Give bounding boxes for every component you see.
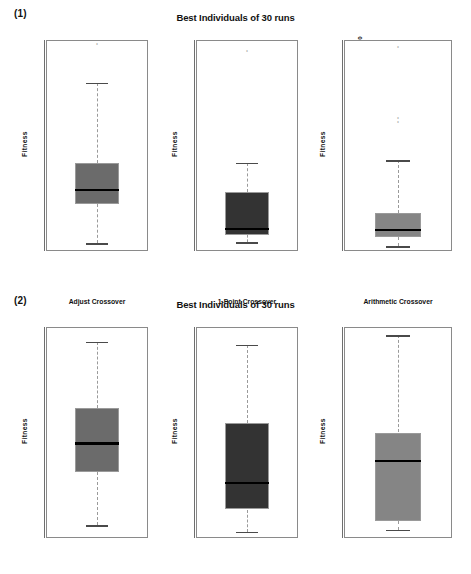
- whisker-cap-upper: [86, 342, 108, 343]
- panel-row2-arithmetic: Fitness 285028602870288028902900 Arithme…: [318, 323, 452, 538]
- plot-area: [46, 40, 148, 251]
- whisker-upper: [398, 160, 399, 212]
- y-axis-line: 0.00290.00300.00310.0032: [194, 40, 195, 251]
- boxplot-row2-1point: [197, 328, 297, 537]
- whisker-upper: [97, 342, 98, 408]
- whisker-cap-lower: [86, 525, 108, 526]
- y-axis-title: Fitness: [21, 131, 28, 157]
- plot-area: [344, 40, 452, 251]
- whisker-cap-upper: [86, 83, 108, 84]
- whisker-lower: [247, 510, 248, 532]
- figure-row-2: (2) Best Individuals of 30 runs Fitness …: [0, 287, 471, 574]
- boxplot-row1-1point: [197, 41, 297, 250]
- boxplot-row1-adjust: [47, 41, 147, 250]
- whisker-lower: [398, 237, 399, 247]
- box-iqr: [75, 408, 119, 473]
- boxplot-row2-arithmetic: [345, 328, 451, 537]
- whisker-lower: [247, 235, 248, 242]
- whisker-upper: [247, 345, 248, 424]
- y-axis-title: Fitness: [319, 131, 326, 157]
- y-axis-line: 285028602870288028902900: [342, 327, 343, 538]
- plot-area: [196, 40, 298, 251]
- outlier-point: [246, 51, 249, 54]
- outlier-point: [96, 44, 99, 47]
- y-axis-title: Fitness: [319, 418, 326, 444]
- y-axis-line: 0.00120.00140.00160.0018: [44, 40, 45, 251]
- y-axis-title: Fitness: [171, 131, 178, 157]
- panel-row2-1point: Fitness 289728982899290029012902 1-Point…: [170, 323, 298, 538]
- whisker-cap-lower: [386, 246, 409, 247]
- whisker-cap-upper: [236, 163, 258, 164]
- panel-row2-adjust: Fitness 25602570258025902600261026202630…: [20, 323, 148, 538]
- median-line: [375, 229, 422, 231]
- panel-row1-adjust: Fitness 0.00120.00140.00160.0018 Adjust …: [20, 36, 148, 251]
- boxplot-row2-adjust: [47, 328, 147, 537]
- whisker-upper: [247, 163, 248, 192]
- outlier-point: [397, 122, 400, 125]
- median-line: [225, 228, 269, 230]
- median-line: [75, 442, 119, 444]
- whisker-cap-lower: [386, 530, 409, 531]
- whisker-cap-lower: [236, 242, 258, 243]
- whisker-lower: [398, 521, 399, 530]
- box-iqr: [225, 423, 269, 509]
- whisker-lower: [97, 472, 98, 525]
- plot-area: [344, 327, 452, 538]
- whisker-lower: [97, 204, 98, 243]
- whisker-cap-upper: [386, 335, 409, 336]
- figure-boxplot-grid: (1) Best Individuals of 30 runs Fitness …: [0, 0, 471, 574]
- row-title-1: Best Individuals of 30 runs: [0, 12, 471, 23]
- y-axis-title: Fitness: [21, 418, 28, 444]
- outlier-point: [397, 47, 400, 50]
- median-line: [225, 482, 269, 484]
- y-axis-line: 289728982899290029012902: [194, 327, 195, 538]
- whisker-upper: [398, 335, 399, 432]
- whisker-cap-upper: [386, 160, 409, 161]
- median-line: [75, 189, 119, 191]
- whisker-cap-lower: [86, 243, 108, 244]
- figure-row-1: (1) Best Individuals of 30 runs Fitness …: [0, 0, 471, 287]
- row-title-2: Best Individuals of 30 runs: [0, 299, 471, 310]
- box-iqr: [75, 163, 119, 204]
- median-line: [375, 460, 422, 462]
- panel-row1-1point: Fitness 0.00290.00300.00310.0032 1-Point…: [170, 36, 298, 251]
- plot-area: [46, 327, 148, 538]
- y-axis-line: 25602570258025902600261026202630: [44, 327, 45, 538]
- panel-row1-arithmetic: Fitness 0.002850.002900.002950.003000.00…: [318, 36, 452, 251]
- y-axis-title: Fitness: [171, 418, 178, 444]
- whisker-upper: [97, 83, 98, 163]
- boxplot-row1-arithmetic: [345, 41, 451, 250]
- whisker-cap-lower: [236, 532, 258, 533]
- box-iqr: [375, 213, 422, 237]
- box-iqr: [375, 433, 422, 521]
- whisker-cap-upper: [236, 345, 258, 346]
- y-axis-line: 0.002850.002900.002950.003000.003050.003…: [342, 40, 343, 251]
- plot-area: [196, 327, 298, 538]
